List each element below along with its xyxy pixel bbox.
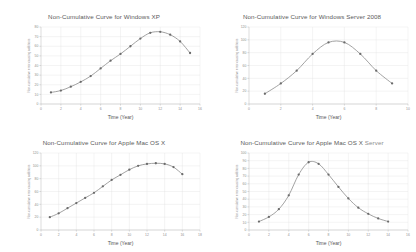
- svg-text:20: 20: [243, 89, 247, 93]
- svg-text:4: 4: [75, 233, 77, 237]
- data-point-marker: [288, 194, 290, 196]
- data-point-marker: [66, 207, 68, 209]
- data-point-marker: [327, 41, 329, 43]
- data-point-marker: [164, 163, 166, 165]
- svg-text:10: 10: [127, 233, 131, 237]
- data-point-marker: [90, 75, 92, 77]
- data-point-marker: [278, 208, 280, 210]
- svg-text:14: 14: [178, 107, 182, 111]
- data-point-marker: [181, 173, 183, 175]
- svg-text:18: 18: [198, 233, 202, 237]
- svg-text:2: 2: [58, 233, 60, 237]
- data-point-marker: [258, 220, 260, 222]
- svg-text:16: 16: [406, 233, 410, 237]
- svg-text:60: 60: [243, 64, 247, 68]
- svg-text:12: 12: [145, 233, 149, 237]
- data-point-marker: [111, 179, 113, 181]
- svg-text:2: 2: [60, 107, 62, 111]
- plot-area: 020406080100120024681012141618Time (Year…: [0, 126, 208, 252]
- svg-text:60: 60: [35, 44, 39, 48]
- data-point-marker: [280, 82, 282, 84]
- data-point-marker: [298, 173, 300, 175]
- svg-text:6: 6: [343, 107, 345, 111]
- data-point-marker: [119, 174, 121, 176]
- chart-panel-apple-mac-os-x: Non-Cumulative Curve for Apple Mac OS X …: [0, 126, 208, 252]
- svg-text:0: 0: [248, 107, 250, 111]
- plot-area: 01020304050607080901000246810121416Time …: [208, 126, 416, 252]
- chart-grid: Non-Cumulative Curve for Windows XP 0102…: [0, 0, 416, 252]
- svg-text:6: 6: [308, 233, 310, 237]
- svg-text:70: 70: [243, 174, 247, 178]
- svg-text:16: 16: [180, 233, 184, 237]
- svg-text:0: 0: [37, 102, 39, 106]
- svg-text:40: 40: [35, 203, 39, 207]
- svg-text:10: 10: [138, 107, 142, 111]
- svg-text:60: 60: [35, 190, 39, 194]
- data-point-marker: [159, 31, 161, 33]
- svg-text:12: 12: [158, 107, 162, 111]
- chart-panel-windows-server-2008: Non-Cumulative Curve for Windows Server …: [208, 0, 416, 126]
- chart-panel-apple-mac-os-x-server: Non-Cumulative Curve for Apple Mac OS X …: [208, 126, 416, 252]
- svg-text:120: 120: [33, 151, 39, 155]
- svg-text:4: 4: [288, 233, 290, 237]
- svg-text:20: 20: [243, 213, 247, 217]
- svg-text:Time (Year): Time (Year): [316, 114, 342, 120]
- chart-panel-windows-xp: Non-Cumulative Curve for Windows XP 0102…: [0, 0, 208, 126]
- data-point-marker: [307, 161, 309, 163]
- data-point-marker: [75, 202, 77, 204]
- data-point-marker: [391, 82, 393, 84]
- svg-text:10: 10: [35, 93, 39, 97]
- svg-text:60: 60: [243, 182, 247, 186]
- svg-text:10: 10: [243, 221, 247, 225]
- svg-text:100: 100: [241, 151, 247, 155]
- data-point-marker: [377, 217, 379, 219]
- svg-text:20: 20: [35, 215, 39, 219]
- data-point-marker: [80, 81, 82, 83]
- data-point-marker: [93, 192, 95, 194]
- data-point-marker: [102, 185, 104, 187]
- data-point-marker: [179, 40, 181, 42]
- svg-text:120: 120: [241, 25, 247, 29]
- data-point-marker: [119, 53, 121, 55]
- svg-text:4: 4: [312, 107, 314, 111]
- data-point-marker: [296, 69, 298, 71]
- data-point-marker: [84, 197, 86, 199]
- svg-text:14: 14: [386, 233, 390, 237]
- svg-text:80: 80: [35, 25, 39, 29]
- svg-text:14: 14: [163, 233, 167, 237]
- data-point-marker: [189, 52, 191, 54]
- svg-text:10: 10: [406, 107, 410, 111]
- svg-text:6: 6: [93, 233, 95, 237]
- data-point-marker: [155, 162, 157, 164]
- data-point-marker: [311, 53, 313, 55]
- data-point-marker: [367, 213, 369, 215]
- data-point-marker: [375, 69, 377, 71]
- svg-text:8: 8: [111, 233, 113, 237]
- data-point-marker: [139, 37, 141, 39]
- svg-text:Non-cumulative error-causing a: Non-cumulative error-causing additions: [235, 38, 239, 92]
- svg-text:10: 10: [346, 233, 350, 237]
- svg-text:100: 100: [33, 164, 39, 168]
- data-point-marker: [357, 207, 359, 209]
- svg-text:40: 40: [243, 197, 247, 201]
- plot-area: 010203040506070800246810121416Time (Year…: [0, 0, 208, 126]
- data-point-marker: [50, 91, 52, 93]
- svg-text:0: 0: [245, 228, 247, 232]
- data-point-marker: [359, 53, 361, 55]
- data-point-marker: [99, 67, 101, 69]
- data-series-line: [265, 41, 392, 94]
- svg-text:Non-cumulative error-causing a: Non-cumulative error-causing additions: [27, 38, 31, 92]
- svg-text:16: 16: [198, 107, 202, 111]
- svg-text:6: 6: [100, 107, 102, 111]
- data-point-marker: [268, 216, 270, 218]
- svg-text:Time (Year): Time (Year): [108, 240, 134, 246]
- data-point-marker: [327, 173, 329, 175]
- data-point-marker: [109, 60, 111, 62]
- svg-text:80: 80: [243, 51, 247, 55]
- svg-text:40: 40: [243, 77, 247, 81]
- svg-text:30: 30: [243, 205, 247, 209]
- svg-text:50: 50: [35, 54, 39, 58]
- data-point-marker: [129, 45, 131, 47]
- data-point-marker: [337, 186, 339, 188]
- data-point-marker: [387, 220, 389, 222]
